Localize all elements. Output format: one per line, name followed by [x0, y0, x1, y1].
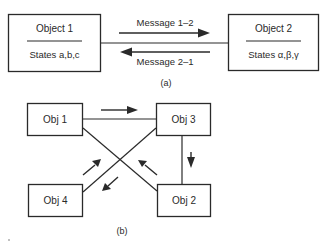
object2-name: Object 2 — [255, 23, 293, 34]
caption-b: (b) — [117, 226, 128, 236]
arrow-up-right-icon — [83, 159, 101, 175]
obj3-box: Obj 3 — [157, 104, 211, 136]
arrow-right-icon — [101, 106, 138, 114]
obj2-label: Obj 2 — [172, 195, 196, 206]
object1-name: Object 1 — [36, 23, 74, 34]
arrow-down-icon — [187, 152, 195, 168]
caption-a: (a) — [161, 78, 172, 88]
obj4-box: Obj 4 — [29, 185, 83, 217]
obj2-box: Obj 2 — [158, 185, 211, 217]
message-2-1-label: Message 2–1 — [136, 56, 193, 67]
obj4-label: Obj 4 — [44, 195, 68, 206]
object-message-diagrams: Object 1 States a,b,c Object 2 States α,… — [0, 0, 327, 242]
arrow-right-icon — [119, 29, 210, 38]
scan-dot — [8, 239, 9, 240]
diagram-b: Obj 1 Obj 3 Obj 4 Obj 2 — [28, 104, 211, 237]
arrow-up-left-icon — [138, 160, 157, 175]
message-1-2-label: Message 1–2 — [136, 17, 193, 28]
object1-box: Object 1 States a,b,c — [9, 15, 101, 72]
arrow-down-left-icon — [102, 177, 118, 191]
obj3-label: Obj 3 — [172, 114, 196, 125]
object2-box: Object 2 States α,β,γ — [229, 15, 319, 71]
object1-states: States a,b,c — [29, 49, 79, 60]
diagram-a: Object 1 States a,b,c Object 2 States α,… — [9, 15, 319, 89]
object2-states: States α,β,γ — [248, 49, 299, 60]
obj1-label: Obj 1 — [43, 114, 67, 125]
obj1-box: Obj 1 — [28, 104, 83, 136]
